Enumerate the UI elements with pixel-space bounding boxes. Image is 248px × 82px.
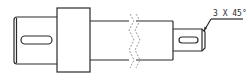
right-keyway-slot xyxy=(179,37,198,43)
collar xyxy=(57,8,90,72)
shaft-drawing-canvas: 3 X 45° xyxy=(0,0,248,82)
left-keyway-slot xyxy=(21,36,52,44)
shaft-drawing: 3 X 45° xyxy=(0,0,248,82)
chamfer-label: 3 X 45° xyxy=(213,9,247,18)
chamfer-leader: 3 X 45° xyxy=(204,9,247,31)
right-shaft-end xyxy=(173,29,205,51)
left-shaft-end xyxy=(14,17,57,64)
